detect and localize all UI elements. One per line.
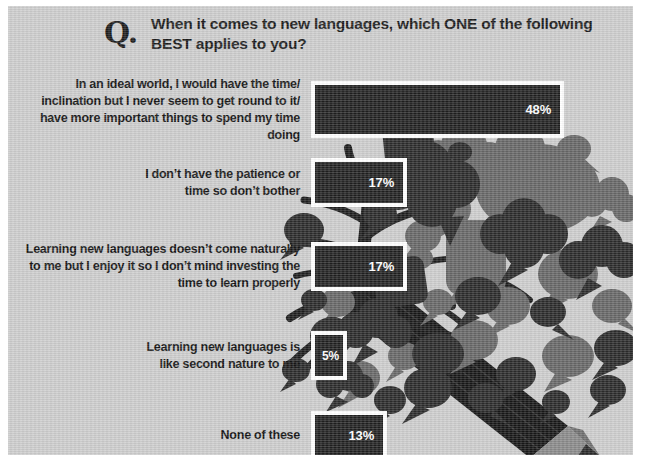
bar-4: 5% <box>315 335 343 376</box>
bar-frame-1: 48% <box>311 81 564 138</box>
bar-label-line: Learning new languages is <box>8 339 300 356</box>
bar-label-4: Learning new languages is like second na… <box>8 339 311 373</box>
bar-label-3: Learning new languages doesn’t come natu… <box>8 241 311 292</box>
bar-frame-5: 13% <box>311 411 387 455</box>
bar-frame-2: 17% <box>311 158 407 207</box>
bar-1: 48% <box>315 85 560 134</box>
bar-value-4: 5% <box>322 349 343 363</box>
bar-label-line: In an ideal world, I would have the time… <box>8 76 300 93</box>
bar-value-3: 17% <box>369 259 403 274</box>
page-title: When it comes to new languages, which ON… <box>151 14 604 55</box>
bar-row-2: I don’t have the patience or time so don… <box>8 158 407 207</box>
bar-label-2: I don’t have the patience or time so don… <box>8 166 311 200</box>
bar-3: 17% <box>315 246 403 287</box>
bar-value-1: 48% <box>526 102 560 117</box>
bar-label-line: like second nature to me <box>8 356 300 373</box>
bar-label-1: In an ideal world, I would have the time… <box>8 76 311 144</box>
bar-label-line: have more important things to spend my t… <box>8 110 300 144</box>
bar-frame-3: 17% <box>311 242 407 291</box>
speech-bubble-tree-artwork <box>8 6 633 455</box>
bar-label-line: I don’t have the patience or <box>8 166 300 183</box>
bar-row-1: In an ideal world, I would have the time… <box>8 76 564 144</box>
bar-value-2: 17% <box>369 175 403 190</box>
bar-row-3: Learning new languages doesn’t come natu… <box>8 241 407 292</box>
bar-frame-4: 5% <box>311 331 347 380</box>
infographic-poster: Q. When it comes to new languages, which… <box>8 6 633 455</box>
bar-value-5: 13% <box>349 428 383 443</box>
question-mark-icon: Q. <box>104 18 137 48</box>
bar-label-line: time to learn properly <box>8 275 300 292</box>
bar-label-line: inclination but I never seem to get roun… <box>8 93 300 110</box>
bar-5: 13% <box>315 415 383 455</box>
question-header: Q. When it comes to new languages, which… <box>104 14 604 55</box>
bar-label-line: Learning new languages doesn’t come natu… <box>8 241 300 258</box>
bar-row-5: None of these 13% <box>8 411 387 455</box>
bar-row-4: Learning new languages is like second na… <box>8 331 347 380</box>
bar-label-line: time so don’t bother <box>8 183 300 200</box>
bar-label-line: to me but I enjoy it so I don’t mind inv… <box>8 258 300 275</box>
bar-2: 17% <box>315 162 403 203</box>
bar-label-line: None of these <box>8 427 300 444</box>
bar-label-5: None of these <box>8 427 311 444</box>
